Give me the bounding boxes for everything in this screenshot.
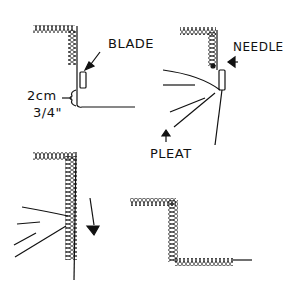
label-measure-cm: 2cm <box>27 88 57 103</box>
sewing-diagram: BLADE 2cm 3/4" NEEDLE PLEAT <box>0 0 302 294</box>
panel-3 <box>14 152 99 280</box>
label-needle: NEEDLE <box>233 40 284 54</box>
panel-2 <box>162 27 238 145</box>
label-measure-in: 3/4" <box>33 105 62 120</box>
label-pleat: PLEAT <box>150 146 192 161</box>
label-blade: BLADE <box>108 36 154 51</box>
panel-4 <box>130 198 252 266</box>
